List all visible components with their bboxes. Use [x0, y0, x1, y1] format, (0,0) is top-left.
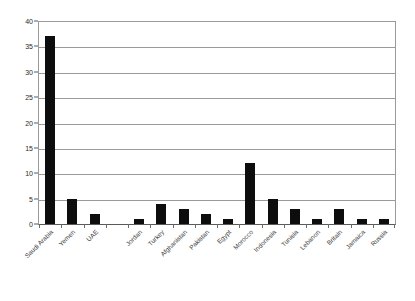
x-axis-tick-mark: [217, 224, 218, 228]
x-axis-tick-mark: [351, 224, 352, 228]
x-axis-label: Tunisia: [280, 229, 299, 248]
x-axis-tick-mark: [106, 224, 107, 228]
bar-series: [39, 21, 395, 224]
x-axis-tick-mark: [195, 224, 196, 228]
bar: [90, 214, 100, 224]
x-axis-label: Saudi Arabia: [24, 229, 55, 260]
x-axis-tick: [39, 224, 61, 228]
bar-slot: [239, 21, 261, 224]
x-axis-tick-mark: [394, 224, 395, 228]
bar-slot: [306, 21, 328, 224]
x-axis-tick-mark: [262, 224, 263, 228]
x-axis-tick-mark: [328, 224, 329, 228]
y-axis-tick-label: 30: [25, 68, 33, 75]
x-axis-label: UAE: [85, 229, 99, 243]
x-axis-tick-mark: [306, 224, 307, 228]
bar-slot: [262, 21, 284, 224]
x-axis-tick: [150, 224, 172, 228]
bar-slot: [150, 21, 172, 224]
bar-slot: [61, 21, 83, 224]
x-axis-tick: [106, 224, 128, 228]
x-axis-label: Yemen: [58, 229, 77, 248]
x-axis-tick-mark: [239, 224, 240, 228]
x-axis-tick: [84, 224, 106, 228]
bar-slot: [351, 21, 373, 224]
x-axis-label: Pakistan: [188, 229, 210, 251]
bar: [334, 209, 344, 224]
x-axis-label: Lebanon: [299, 229, 321, 251]
y-axis-tick-label: 10: [25, 170, 33, 177]
x-axis-tick: [306, 224, 328, 228]
y-axis-tick-label: 0: [29, 221, 33, 228]
bar: [245, 163, 255, 224]
y-axis-tick-label: 25: [25, 94, 33, 101]
y-axis-tick-label: 20: [25, 119, 33, 126]
bar-slot: [217, 21, 239, 224]
bar-slot: [328, 21, 350, 224]
bar-slot: [284, 21, 306, 224]
bar: [268, 199, 278, 224]
bar: [201, 214, 211, 224]
x-axis-tick-mark: [128, 224, 129, 228]
x-axis-tick: [195, 224, 217, 228]
y-axis-tick-label: 35: [25, 43, 33, 50]
x-axis-label: Jordan: [125, 229, 144, 248]
bar: [156, 204, 166, 224]
bar-slot: [39, 21, 61, 224]
bar-slot: [128, 21, 150, 224]
x-axis-tick: [373, 224, 395, 228]
bar-slot: [106, 21, 128, 224]
bar: [45, 36, 55, 224]
y-axis-tick-label: 40: [25, 18, 33, 25]
x-axis-tick: [239, 224, 261, 228]
x-axis-label: Russia: [370, 229, 389, 248]
bar: [290, 209, 300, 224]
x-axis-tick: [351, 224, 373, 228]
x-axis-tick: [262, 224, 284, 228]
bar-slot: [195, 21, 217, 224]
x-axis-tick: [173, 224, 195, 228]
bar-slot: [173, 21, 195, 224]
x-axis-tick-mark: [173, 224, 174, 228]
x-axis-tick-mark: [373, 224, 374, 228]
bar-chart: 0510152025303540 Saudi ArabiaYemenUAEJor…: [0, 0, 415, 301]
x-axis-label: Britain: [326, 229, 344, 247]
x-axis-label: Jamaica: [344, 229, 366, 251]
x-axis-label: Turkey: [147, 229, 165, 247]
x-axis-tick: [217, 224, 239, 228]
y-axis: 0510152025303540: [0, 21, 38, 225]
x-axis-tick: [328, 224, 350, 228]
x-axis-label: Indonesia: [253, 229, 278, 254]
x-axis-tick-mark: [84, 224, 85, 228]
x-axis-ticks: [39, 224, 395, 228]
x-axis-tick-mark: [284, 224, 285, 228]
x-axis-tick-mark: [39, 224, 40, 228]
x-axis-labels: Saudi ArabiaYemenUAEJordanTurkeyAfghanis…: [39, 229, 395, 299]
y-axis-tick-label: 15: [25, 144, 33, 151]
x-axis-tick-mark: [150, 224, 151, 228]
bar-slot: [373, 21, 395, 224]
bar: [67, 199, 77, 224]
x-axis-tick: [61, 224, 83, 228]
y-axis-tick-label: 5: [29, 195, 33, 202]
x-axis-label: Egypt: [216, 229, 232, 245]
x-axis-tick-mark: [61, 224, 62, 228]
bar-slot: [84, 21, 106, 224]
x-axis-tick: [284, 224, 306, 228]
x-axis-tick: [128, 224, 150, 228]
bar: [179, 209, 189, 224]
